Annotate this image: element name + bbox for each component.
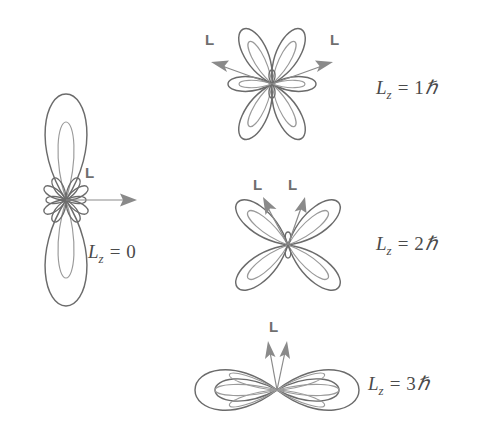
lz-1-vector-label-left: L <box>205 31 214 48</box>
probability-lobe <box>272 77 316 92</box>
probability-lobe <box>45 200 87 306</box>
probability-lobe <box>288 245 340 290</box>
lz-2-symbol: L <box>375 233 387 254</box>
lz-2-label: Lz=2ℏ <box>375 233 439 258</box>
lz-1-symbol: L <box>375 77 387 98</box>
lz-1-label: Lz=1ℏ <box>375 77 439 102</box>
lz-3-hbar: ℏ <box>417 373 431 394</box>
probability-lobe <box>215 379 277 401</box>
lz-3-symbol: L <box>367 373 379 394</box>
probability-lobe <box>58 122 74 200</box>
lz-1-panel: L L Lz=1ℏ <box>205 28 439 139</box>
svg-text:Lz=0: Lz=0 <box>87 241 136 266</box>
lz-2-value: 2 <box>414 233 424 254</box>
figure-svg: L Lz=0 L L Lz=1ℏ <box>0 0 480 437</box>
lz-2-arrow-shaft-left <box>268 208 288 245</box>
lz-3-equals: = <box>390 373 401 394</box>
lz-0-panel: L Lz=0 <box>44 94 137 306</box>
lz-0-symbol: L <box>87 241 99 262</box>
probability-lobe <box>239 28 273 84</box>
lz-3-vector-label: L <box>269 318 278 335</box>
lz-2-equals: = <box>398 233 409 254</box>
probability-lobe <box>236 200 288 245</box>
lz-3-arrow-head-right <box>280 341 291 359</box>
lz-3-label: Lz=3ℏ <box>367 373 431 398</box>
probability-lobe <box>195 370 277 411</box>
lz-1-arrow-head-left <box>211 61 229 73</box>
lz-1-hbar: ℏ <box>425 77 439 98</box>
lz-0-vector-label: L <box>85 164 94 181</box>
probability-lobe <box>228 77 272 92</box>
lz-2-hbar: ℏ <box>425 233 439 254</box>
svg-text:Lz=3ℏ: Lz=3ℏ <box>367 373 431 398</box>
lz-0-subscript: z <box>98 251 104 266</box>
lz-0-vector-0: L <box>66 164 137 207</box>
lz-2-lobes <box>236 200 341 290</box>
lz-2-panel: L L Lz=2ℏ <box>236 176 439 290</box>
lz-2-vector-label-right: L <box>288 176 297 193</box>
lz-1-value: 1 <box>414 77 424 98</box>
lz-2-vector-label-left: L <box>253 176 262 193</box>
lz-3-panel: L Lz=3ℏ <box>195 318 431 410</box>
probability-lobe <box>272 84 306 140</box>
probability-lobe <box>239 84 273 140</box>
lz-1-vector-label-right: L <box>330 31 339 48</box>
svg-text:Lz=1ℏ: Lz=1ℏ <box>375 77 439 102</box>
lz-0-label: Lz=0 <box>87 241 136 266</box>
probability-lobe <box>272 28 306 84</box>
angular-momentum-figure: L Lz=0 L L Lz=1ℏ <box>0 0 480 437</box>
probability-lobe <box>45 94 87 200</box>
probability-lobe <box>58 200 74 278</box>
lz-3-subscript: z <box>378 383 384 398</box>
lz-1-arrow-head-right <box>315 61 333 73</box>
probability-lobe <box>277 370 359 411</box>
lz-1-subscript: z <box>386 87 392 102</box>
lz-3-value: 3 <box>406 373 416 394</box>
lz-2-arrow-shaft-right <box>288 208 301 245</box>
probability-lobe <box>236 245 288 290</box>
probability-lobe <box>277 379 339 401</box>
lz-0-equals: = <box>110 241 121 262</box>
lz-2-subscript: z <box>386 243 392 258</box>
lz-0-value: 0 <box>126 241 136 262</box>
lz-3-arrow-shaft-left <box>270 352 277 390</box>
svg-text:Lz=2ℏ: Lz=2ℏ <box>375 233 439 258</box>
lz-1-equals: = <box>398 77 409 98</box>
